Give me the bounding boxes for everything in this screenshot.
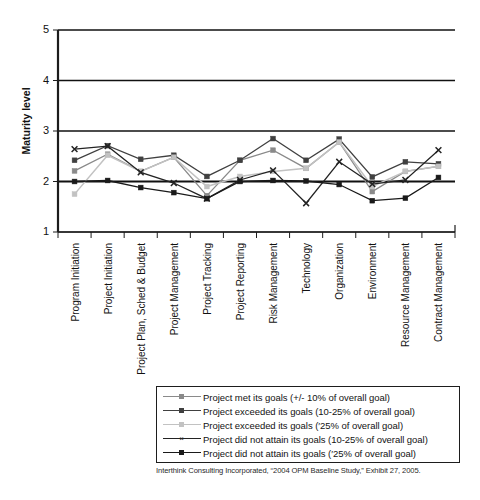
legend-swatch-square-marker [161,446,203,460]
data-point-marker [171,155,176,160]
data-point-marker [105,153,110,158]
data-point-marker [370,175,375,180]
x-category-label: Organization [334,243,345,300]
data-point-marker [336,159,342,165]
legend-swatch-square-marker [161,390,203,404]
data-point-marker [271,136,276,141]
data-point-marker [238,179,243,184]
legend-label: Project met its goals (+/- 10% of overal… [203,392,390,403]
data-point-marker [105,178,110,183]
data-point-marker [304,166,309,171]
legend-item: Project met its goals (+/- 10% of overal… [161,390,455,404]
y-tick-label: 5 [43,23,49,35]
y-tick-label: 2 [43,175,49,187]
data-point-marker [403,169,408,174]
legend-item: Project exceeded its goals (10-25% of ov… [161,404,455,418]
data-point-marker [204,174,209,179]
data-point-marker [403,196,408,201]
source-caption: Interthink Consulting Incorporated, “200… [156,466,466,475]
data-point-marker [271,178,276,183]
data-point-marker [72,158,77,163]
data-point-marker [403,159,408,164]
legend-label: Project exceeded its goals (′25% of over… [203,420,403,431]
legend-item: ×Project did not attain its goals (10-25… [161,432,455,446]
data-point-marker [304,158,309,163]
data-point-marker [72,192,77,197]
y-tick-label: 1 [43,225,49,237]
data-point-marker [370,189,375,194]
data-point-marker [238,158,243,163]
x-category-label: Environment [367,243,378,299]
data-point-marker [72,168,77,173]
x-category-label: Project Plan, Sched & Budget [136,243,147,375]
x-category-label: Program Initiation [70,243,81,321]
data-point-marker [204,184,209,189]
y-tick-label: 3 [43,124,49,136]
chart-legend: Project met its goals (+/- 10% of overal… [156,386,460,463]
legend-item: Project did not attain its goals (′25% o… [161,446,455,460]
series-line-1 [75,139,439,177]
legend-label: Project did not attain its goals (′25% o… [203,448,416,459]
data-point-marker [72,179,77,184]
y-tick-label: 4 [43,74,49,86]
data-point-marker [304,179,309,184]
data-point-marker [138,185,143,190]
line-chart: 12345Maturity levelProgram InitiationPro… [0,0,480,380]
legend-item: Project exceeded its goals (′25% of over… [161,418,455,432]
x-category-label: Project Initiation [103,243,114,314]
data-point-marker [171,190,176,195]
x-category-label: Project Management [169,243,180,335]
data-point-marker [436,164,441,169]
data-point-marker [337,182,342,187]
data-point-marker [271,148,276,153]
data-point-marker [138,157,143,162]
x-category-label: Project Reporting [235,243,246,320]
legend-swatch-square-marker [161,404,203,418]
data-point-marker [303,200,309,206]
x-category-label: Technology [301,243,312,294]
legend-label: Project exceeded its goals (10-25% of ov… [203,406,415,417]
y-axis-title: Maturity level [20,87,32,154]
legend-swatch-x-marker: × [161,432,203,446]
data-point-marker [436,175,441,180]
data-point-marker [337,140,342,145]
x-category-label: Resource Management [400,243,411,347]
legend-label: Project did not attain its goals (10-25%… [203,434,428,445]
data-point-marker [436,147,442,153]
legend-swatch-square-marker [161,418,203,432]
data-point-marker [370,198,375,203]
x-category-label: Risk Management [268,243,279,324]
x-category-label: Contract Management [433,243,444,342]
x-category-label: Project Tracking [202,243,213,315]
data-point-marker [204,196,209,201]
